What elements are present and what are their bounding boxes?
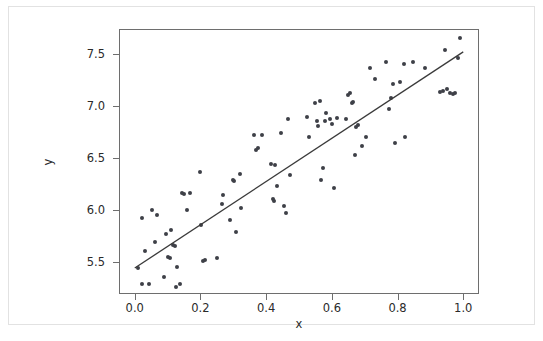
scatter-point bbox=[220, 202, 224, 206]
plot-area bbox=[119, 29, 479, 294]
x-axis-tick-label: 0.2 bbox=[178, 301, 222, 315]
y-axis-tick-label: 7.0 bbox=[53, 100, 105, 112]
x-axis-label: x bbox=[119, 317, 479, 331]
scatter-point bbox=[328, 117, 332, 121]
y-axis-tick-label: 6.0 bbox=[53, 204, 105, 216]
scatter-point bbox=[316, 124, 320, 128]
scatter-point bbox=[272, 199, 276, 203]
x-axis-tick bbox=[398, 294, 399, 300]
scatter-point bbox=[324, 111, 328, 115]
scatter-point bbox=[364, 135, 368, 139]
scatter-point bbox=[234, 230, 238, 234]
scatter-point bbox=[275, 184, 279, 188]
scatter-point bbox=[198, 170, 202, 174]
scatter-point bbox=[441, 89, 445, 93]
scatter-point bbox=[368, 66, 372, 70]
scatter-point bbox=[356, 123, 360, 127]
scatter-point bbox=[136, 266, 140, 270]
scatter-point bbox=[307, 135, 311, 139]
y-axis-tick-label: 7.5 bbox=[53, 48, 105, 60]
x-axis-tick-label: 0.0 bbox=[113, 301, 157, 315]
scatter-point bbox=[174, 285, 178, 289]
scatter-point bbox=[456, 56, 460, 60]
scatter-point bbox=[335, 116, 339, 120]
scatter-point bbox=[239, 206, 243, 210]
scatter-point bbox=[453, 91, 457, 95]
scatter-point bbox=[332, 186, 336, 190]
x-axis-tick bbox=[200, 294, 201, 300]
scatter-point bbox=[305, 115, 309, 119]
scatter-point bbox=[351, 100, 355, 104]
scatter-point bbox=[286, 117, 290, 121]
scatter-point bbox=[232, 179, 236, 183]
scatter-point bbox=[321, 166, 325, 170]
scatter-point bbox=[153, 240, 157, 244]
scatter-point bbox=[150, 208, 154, 212]
scatter-point bbox=[182, 192, 186, 196]
scatter-point bbox=[164, 232, 168, 236]
scatter-point bbox=[175, 265, 179, 269]
scatter-point bbox=[323, 119, 327, 123]
y-axis-tick-label: 5.5 bbox=[53, 256, 105, 268]
scatter-point bbox=[398, 80, 402, 84]
scatter-point bbox=[360, 144, 364, 148]
y-axis-tick-label: 6.5 bbox=[53, 152, 105, 164]
scatter-point bbox=[288, 173, 292, 177]
scatter-point bbox=[282, 204, 286, 208]
scatter-point bbox=[228, 218, 232, 222]
scatter-point bbox=[284, 211, 288, 215]
x-axis-tick-label: 1.0 bbox=[441, 301, 485, 315]
scatter-point bbox=[319, 178, 323, 182]
scatter-point bbox=[279, 131, 283, 135]
x-axis-tick-label: 0.8 bbox=[376, 301, 420, 315]
scatter-point bbox=[318, 99, 322, 103]
scatter-point bbox=[443, 48, 447, 52]
scatter-point bbox=[221, 193, 225, 197]
scatter-point bbox=[423, 66, 427, 70]
scatter-point bbox=[169, 228, 173, 232]
scatter-point bbox=[330, 122, 334, 126]
scatter-point bbox=[403, 135, 407, 139]
scatter-point bbox=[260, 133, 264, 137]
scatter-point bbox=[402, 62, 406, 66]
x-axis-tick bbox=[332, 294, 333, 300]
x-axis-tick bbox=[135, 294, 136, 300]
scatter-point bbox=[353, 153, 357, 157]
scatter-point bbox=[215, 256, 219, 260]
x-axis-tick bbox=[266, 294, 267, 300]
scatter-point bbox=[252, 133, 256, 137]
scatter-point bbox=[393, 141, 397, 145]
scatter-point bbox=[373, 77, 377, 81]
scatter-point bbox=[348, 91, 352, 95]
scatter-point bbox=[199, 223, 203, 227]
scatter-point bbox=[203, 258, 207, 262]
scatter-point bbox=[411, 60, 415, 64]
x-axis-tick-label: 0.6 bbox=[310, 301, 354, 315]
scatter-point bbox=[313, 101, 317, 105]
scatter-point bbox=[389, 96, 393, 100]
scatter-point bbox=[315, 119, 319, 123]
scatter-point bbox=[273, 163, 277, 167]
scatter-point bbox=[185, 208, 189, 212]
x-axis-tick-label: 0.4 bbox=[244, 301, 288, 315]
scatter-point bbox=[155, 213, 159, 217]
figure-frame: 5.56.06.57.07.5 0.00.20.40.60.81.0 x y bbox=[8, 6, 535, 325]
scatter-point bbox=[162, 275, 166, 279]
scatter-point bbox=[238, 172, 242, 176]
scatter-point bbox=[173, 244, 177, 248]
x-axis-tick bbox=[463, 294, 464, 300]
scatter-point bbox=[391, 82, 395, 86]
scatter-point bbox=[147, 282, 151, 286]
scatter-point bbox=[140, 216, 144, 220]
scatter-point bbox=[387, 107, 391, 111]
scatter-point bbox=[140, 282, 144, 286]
scatter-point bbox=[168, 256, 172, 260]
scatter-point bbox=[384, 60, 388, 64]
y-axis-label: y bbox=[41, 159, 55, 166]
scatter-point bbox=[188, 191, 192, 195]
scatter-point bbox=[143, 249, 147, 253]
scatter-point bbox=[458, 36, 462, 40]
scatter-point bbox=[178, 282, 182, 286]
scatter-point bbox=[344, 117, 348, 121]
